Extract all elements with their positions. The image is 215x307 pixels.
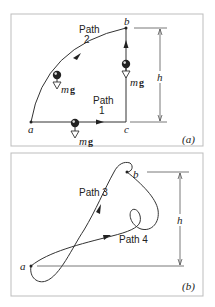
- path-1-arrow-up-icon: [124, 40, 129, 48]
- mass-on-horizontal: m g: [71, 119, 93, 147]
- point-a-label: a: [28, 123, 34, 135]
- force-g: g: [139, 77, 144, 88]
- point-b-label: b: [133, 168, 139, 180]
- path-2-arrow-icon: [73, 53, 81, 60]
- force-m: m: [79, 135, 87, 147]
- point-b-label: b: [124, 15, 130, 27]
- height-label: h: [157, 71, 163, 83]
- work-paths-diagram: m g m g m g a b c Path 2 Path 1: [0, 0, 215, 307]
- panel-a: m g m g m g a b c Path 2 Path 1: [11, 14, 203, 147]
- point-a-label: a: [20, 260, 26, 272]
- path-3-label: Path 3: [79, 187, 108, 198]
- force-m: m: [61, 83, 69, 95]
- path-4-arrow-icon: [103, 235, 111, 240]
- panel-b-label: (b): [182, 280, 195, 293]
- point-b-dot: [126, 171, 129, 174]
- path-2-label-line2: 2: [84, 34, 90, 45]
- point-a-dot: [30, 265, 33, 268]
- force-g: g: [88, 136, 93, 147]
- mass-on-vertical: m g: [122, 60, 144, 88]
- height-label: h: [177, 214, 183, 226]
- path-1-label-line2: 1: [99, 105, 105, 116]
- panel-a-frame: [11, 14, 203, 146]
- path-3-curve: [31, 162, 132, 281]
- gravity-arrow-icon: [122, 71, 130, 78]
- panel-b: a b Path 3 Path 4 h (b): [11, 153, 203, 296]
- path-1-arrow-right-icon: [96, 120, 104, 125]
- point-c-label: c: [124, 123, 129, 135]
- force-m: m: [130, 76, 138, 88]
- panel-b-frame: [11, 153, 203, 296]
- path-4-label: Path 4: [119, 234, 148, 245]
- path-2-arc: [31, 28, 126, 122]
- mass-on-arc: m g: [53, 71, 75, 95]
- gravity-arrow-icon: [53, 82, 61, 89]
- panel-a-label: (a): [182, 133, 195, 146]
- gravity-arrow-icon: [71, 131, 79, 138]
- force-g: g: [70, 84, 75, 95]
